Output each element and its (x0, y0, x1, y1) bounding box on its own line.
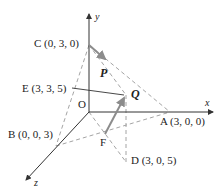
z-axis-label: z (33, 177, 38, 188)
dashed-c-to-b (56, 45, 89, 146)
vector-p-label: P (100, 66, 108, 80)
vector-q-arrow (105, 98, 124, 134)
vector-p-arrow (89, 45, 105, 59)
point-c-label: C (0, 3, 0) (34, 37, 79, 50)
point-f-label: F (100, 136, 106, 148)
vector-q-label: Q (131, 87, 140, 101)
dashed-c-to-q (89, 45, 126, 95)
coordinate-diagram: y x z O C (0, 3, 0) E (3, 3, 5) B (0, 0,… (0, 0, 219, 193)
y-axis-label: y (94, 11, 100, 22)
z-axis (26, 112, 89, 180)
point-d-label: D (3, 0, 5) (131, 154, 177, 167)
x-axis-label: x (204, 97, 210, 108)
line-e-to-q (72, 88, 124, 95)
origin-label: O (78, 98, 86, 110)
point-b-label: B (0, 0, 3) (8, 128, 53, 141)
point-e-label: E (3, 3, 5) (22, 82, 67, 95)
dashed-o-to-d (89, 112, 126, 162)
point-a-label: A (3, 0, 0) (160, 115, 205, 128)
